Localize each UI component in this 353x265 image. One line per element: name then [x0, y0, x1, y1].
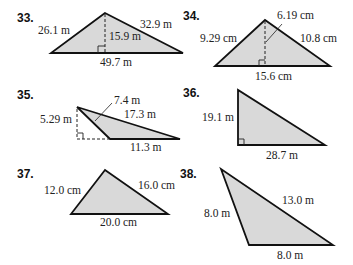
problem-number: 36.: [183, 86, 200, 100]
side-label-right: 13.0 m: [282, 194, 314, 206]
height-label: 15.9 m: [109, 30, 141, 42]
side-label-right: 10.8 cm: [300, 32, 337, 44]
side-label-left: 12.0 cm: [44, 184, 81, 196]
problem-38: 38. 8.0 m 13.0 m 8.0 m: [180, 167, 333, 261]
problem-34: 34. 6.19 cm 9.29 cm 10.8 cm 15.6 cm: [183, 9, 337, 82]
problem-37: 37. 12.0 cm 16.0 cm 20.0 cm: [17, 167, 175, 228]
height-label: 5.29 m: [40, 113, 72, 125]
problem-number: 38.: [180, 167, 197, 181]
right-angle-marker: [77, 133, 83, 139]
triangle-38: [221, 169, 333, 245]
side-label-top: 7.4 m: [114, 94, 140, 106]
side-label-right: 17.3 m: [124, 108, 156, 120]
problem-number: 33.: [17, 11, 34, 25]
triangle-37: [71, 170, 168, 214]
base-label: 11.3 m: [130, 141, 162, 153]
triangle-36: [238, 90, 325, 145]
side-label-right: 32.9 m: [140, 18, 172, 30]
height-label: 6.19 cm: [277, 9, 314, 21]
base-label: 8.0 m: [277, 249, 303, 261]
problem-number: 35.: [17, 88, 34, 102]
base-label: 15.6 cm: [255, 70, 292, 82]
problem-33: 33. 26.1 m 32.9 m 15.9 m 49.7 m: [17, 11, 183, 68]
side-label-left: 9.29 cm: [200, 32, 237, 44]
side-label-left: 26.1 m: [38, 24, 70, 36]
side-label-right: 16.0 cm: [138, 179, 175, 191]
side-label-left: 19.1 m: [202, 111, 234, 123]
problem-35: 35. 7.4 m 17.3 m 5.29 m 11.3 m: [17, 88, 180, 153]
problem-number: 37.: [17, 167, 34, 181]
base-label: 20.0 cm: [100, 216, 137, 228]
side-label-left: 8.0 m: [204, 207, 230, 219]
base-label: 28.7 m: [266, 149, 298, 161]
problem-number: 34.: [183, 9, 200, 23]
problem-36: 36. 19.1 m 28.7 m: [183, 86, 325, 161]
base-label: 49.7 m: [100, 56, 132, 68]
